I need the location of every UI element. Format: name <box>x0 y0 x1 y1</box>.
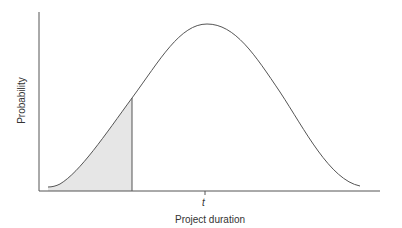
y-axis-label: Probability <box>16 66 27 136</box>
tick-label-t: t <box>202 197 205 208</box>
shaded-area <box>48 98 132 191</box>
chart-canvas <box>0 0 402 228</box>
x-axis-label: Project duration <box>150 214 270 225</box>
